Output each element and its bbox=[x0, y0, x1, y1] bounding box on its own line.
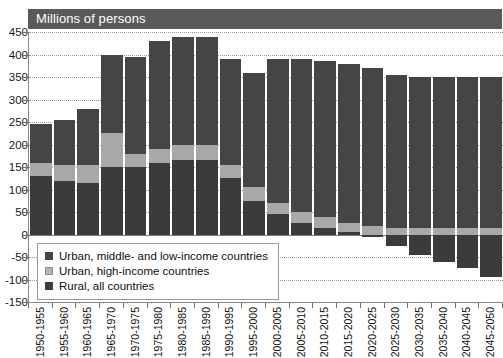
x-tick-label: 1985-1990 bbox=[200, 307, 212, 357]
bar-segment-rural bbox=[101, 167, 123, 235]
bar-segment-urban-hi bbox=[386, 228, 408, 235]
bar-segment-urban-ml bbox=[480, 77, 502, 228]
bar-segment-urban-ml bbox=[386, 75, 408, 228]
bar-segment-rural bbox=[243, 201, 265, 235]
bar-column bbox=[314, 32, 336, 302]
x-tick-label: 1970-1975 bbox=[129, 307, 141, 357]
x-tick-label: 1995-2000 bbox=[247, 307, 259, 357]
legend-swatch-urban-ml-icon bbox=[45, 252, 53, 260]
bar-segment-rural bbox=[54, 181, 76, 235]
legend-item: Urban, high-income countries bbox=[45, 264, 268, 278]
bar-segment-urban-ml bbox=[196, 37, 218, 145]
bar-segment-rural bbox=[125, 167, 147, 235]
x-tick-label: 1950-1955 bbox=[34, 307, 46, 357]
bar-segment-rural bbox=[362, 235, 384, 237]
x-tick-label: 2015-2020 bbox=[342, 307, 354, 357]
bar-segment-urban-hi bbox=[433, 228, 455, 235]
bar-segment-urban-ml bbox=[149, 41, 171, 149]
bar-column bbox=[291, 32, 313, 302]
chart-header-band: Millions of persons bbox=[28, 9, 502, 29]
legend-swatch-urban-hi-icon bbox=[45, 267, 53, 275]
bar-segment-urban-hi bbox=[338, 223, 360, 232]
bar-segment-rural bbox=[220, 178, 242, 234]
bar-segment-urban-ml bbox=[101, 55, 123, 134]
bar-segment-urban-ml bbox=[362, 68, 384, 226]
legend-label: Urban, middle- and low-income countries bbox=[59, 250, 268, 262]
x-tick-label: 1990-1995 bbox=[223, 307, 235, 357]
bar-segment-urban-hi bbox=[125, 154, 147, 168]
x-tick-label: 2020-2025 bbox=[366, 307, 378, 357]
legend-swatch-rural-icon bbox=[45, 282, 53, 290]
bar-segment-urban-hi bbox=[196, 145, 218, 161]
bar-segment-urban-ml bbox=[457, 77, 479, 228]
legend-label: Rural, all countries bbox=[59, 280, 154, 292]
bar-segment-rural bbox=[30, 176, 52, 235]
legend-label: Urban, high-income countries bbox=[59, 265, 209, 277]
x-tick-label: 2025-2030 bbox=[389, 307, 401, 357]
bar-segment-rural bbox=[172, 160, 194, 234]
bar-segment-rural bbox=[149, 163, 171, 235]
bar-segment-rural bbox=[409, 235, 431, 255]
bar-segment-rural bbox=[433, 235, 455, 262]
bar-segment-urban-hi bbox=[54, 165, 76, 181]
bar-segment-rural bbox=[386, 235, 408, 246]
x-axis-labels: 1950-19551955-19601960-19651965-19701970… bbox=[28, 307, 502, 358]
bar-segment-urban-hi bbox=[101, 133, 123, 167]
x-tick-label: 1955-1960 bbox=[58, 307, 70, 357]
bar-segment-urban-hi bbox=[291, 212, 313, 223]
cut-off-title bbox=[40, 0, 240, 6]
bar-segment-rural bbox=[267, 214, 289, 234]
x-tick-label: 1975-1980 bbox=[152, 307, 164, 357]
bar-segment-urban-ml bbox=[267, 59, 289, 203]
bar-column bbox=[338, 32, 360, 302]
bar-segment-urban-hi bbox=[243, 187, 265, 201]
bar-segment-urban-hi bbox=[77, 165, 99, 183]
x-tick-label: 2040-2045 bbox=[460, 307, 472, 357]
bar-column bbox=[480, 32, 502, 302]
x-axis bbox=[28, 302, 502, 303]
bar-segment-urban-ml bbox=[54, 120, 76, 165]
bar-segment-rural bbox=[77, 183, 99, 235]
bar-segment-urban-ml bbox=[172, 37, 194, 145]
bar-column bbox=[362, 32, 384, 302]
bar-segment-urban-hi bbox=[457, 228, 479, 235]
bar-segment-urban-ml bbox=[243, 73, 265, 188]
bar-segment-urban-hi bbox=[267, 203, 289, 214]
x-tick-label: 2030-2035 bbox=[413, 307, 425, 357]
bar-column bbox=[433, 32, 455, 302]
x-tick-label: 1980-1985 bbox=[176, 307, 188, 357]
chart-header-label: Millions of persons bbox=[36, 11, 146, 26]
bar-segment-urban-ml bbox=[291, 59, 313, 212]
bar-segment-urban-ml bbox=[220, 59, 242, 165]
bar-segment-urban-hi bbox=[30, 163, 52, 177]
bar-column bbox=[409, 32, 431, 302]
legend-item: Urban, middle- and low-income countries bbox=[45, 249, 268, 263]
x-tick-label: 2005-2010 bbox=[295, 307, 307, 357]
bar-segment-urban-hi bbox=[172, 145, 194, 161]
bar-segment-urban-ml bbox=[125, 57, 147, 154]
chart-legend: Urban, middle- and low-income countries … bbox=[37, 243, 279, 300]
bar-column bbox=[386, 32, 408, 302]
x-tick-label: 2035-2040 bbox=[437, 307, 449, 357]
bar-segment-urban-ml bbox=[338, 64, 360, 224]
bar-segment-urban-hi bbox=[409, 228, 431, 235]
bar-segment-urban-hi bbox=[362, 226, 384, 235]
bar-segment-urban-hi bbox=[314, 217, 336, 228]
bar-segment-urban-ml bbox=[314, 61, 336, 216]
x-tick-label: 2045-2050 bbox=[484, 307, 496, 357]
x-tick-label: 2000-2005 bbox=[271, 307, 283, 357]
bar-column bbox=[457, 32, 479, 302]
bar-segment-urban-ml bbox=[30, 124, 52, 162]
bar-segment-urban-hi bbox=[480, 228, 502, 235]
x-tick-label: 1965-1970 bbox=[105, 307, 117, 357]
bar-segment-rural bbox=[314, 228, 336, 235]
bar-segment-urban-ml bbox=[409, 77, 431, 228]
bar-segment-rural bbox=[457, 235, 479, 269]
bar-segment-rural bbox=[338, 232, 360, 234]
x-tick-label: 1960-1965 bbox=[81, 307, 93, 357]
bar-segment-rural bbox=[291, 223, 313, 234]
legend-item: Rural, all countries bbox=[45, 279, 268, 293]
bar-segment-rural bbox=[196, 160, 218, 234]
x-tick-label: 2010-2015 bbox=[318, 307, 330, 357]
bar-segment-urban-hi bbox=[149, 149, 171, 163]
